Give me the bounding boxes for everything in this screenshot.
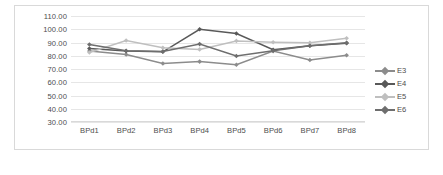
legend-label: E6 xyxy=(397,106,406,114)
series-line-E3 xyxy=(89,51,346,65)
x-axis-tick-label: BPd8 xyxy=(337,126,356,135)
x-axis-tick-label: BPd7 xyxy=(301,126,320,135)
data-point-E3-BPd8 xyxy=(344,53,349,58)
data-point-E3-BPd3 xyxy=(161,61,166,66)
legend-swatch-E3-icon xyxy=(375,66,395,75)
y-axis-tick-label: 60.00 xyxy=(47,78,67,87)
data-point-E5-BPd4 xyxy=(197,47,202,52)
x-axis-tick-label: BPd2 xyxy=(117,126,136,135)
data-point-E6-BPd7 xyxy=(308,44,313,49)
data-point-E6-BPd3 xyxy=(161,49,166,54)
chart-plot-wrapper: 110.00100.0090.0080.0070.0060.0050.0040.… xyxy=(15,6,428,149)
data-point-E6-BPd5 xyxy=(234,54,239,59)
y-axis-tick-label: 50.00 xyxy=(47,91,67,100)
data-point-E3-BPd7 xyxy=(308,58,313,63)
series-lines xyxy=(71,16,365,122)
x-axis-tick-label: BPd5 xyxy=(227,126,246,135)
data-point-E6-BPd1 xyxy=(87,42,92,47)
legend-label: E5 xyxy=(397,93,406,101)
x-axis-tick-label: BPd6 xyxy=(264,126,283,135)
legend-diamond-icon xyxy=(381,79,389,87)
y-axis-tick-label: 90.00 xyxy=(47,38,67,47)
legend-swatch-E6-icon xyxy=(375,105,395,114)
y-axis-tick-label: 110.00 xyxy=(44,12,67,21)
plot-area xyxy=(71,16,365,122)
legend-label: E3 xyxy=(397,67,406,75)
data-point-E5-BPd2 xyxy=(124,38,129,43)
gridline xyxy=(71,122,365,123)
x-axis: BPd1BPd2BPd3BPd4BPd5BPd6BPd7BPd8 xyxy=(71,126,365,140)
y-axis-tick-label: 40.00 xyxy=(47,104,67,113)
y-axis: 110.00100.0090.0080.0070.0060.0050.0040.… xyxy=(23,16,67,122)
legend-label: E4 xyxy=(397,80,406,88)
data-point-E3-BPd5 xyxy=(234,62,239,67)
y-axis-tick-label: 70.00 xyxy=(47,65,67,74)
data-point-E6-BPd4 xyxy=(197,42,202,47)
x-axis-tick-label: BPd1 xyxy=(80,126,99,135)
data-point-E4-BPd5 xyxy=(234,31,239,36)
data-point-E4-BPd1 xyxy=(87,46,92,51)
legend-item-E4[interactable]: E4 xyxy=(375,77,427,90)
legend-diamond-icon xyxy=(381,66,389,74)
legend-item-E6[interactable]: E6 xyxy=(375,103,427,116)
legend-diamond-icon xyxy=(381,92,389,100)
x-axis-tick-label: BPd4 xyxy=(190,126,209,135)
data-point-E5-BPd8 xyxy=(344,36,349,41)
legend-swatch-E5-icon xyxy=(375,92,395,101)
chart-container: 110.00100.0090.0080.0070.0060.0050.0040.… xyxy=(14,5,429,150)
data-point-E6-BPd2 xyxy=(124,48,129,53)
data-point-E6-BPd8 xyxy=(344,40,349,45)
legend-item-E5[interactable]: E5 xyxy=(375,90,427,103)
data-point-E5-BPd6 xyxy=(271,40,276,45)
data-point-E3-BPd4 xyxy=(197,59,202,64)
data-point-E5-BPd5 xyxy=(234,39,239,44)
x-axis-tick-label: BPd3 xyxy=(154,126,173,135)
legend-diamond-icon xyxy=(381,105,389,113)
legend-swatch-E4-icon xyxy=(375,79,395,88)
legend-item-E3[interactable]: E3 xyxy=(375,64,427,77)
y-axis-tick-label: 80.00 xyxy=(47,51,67,60)
y-axis-tick-label: 30.00 xyxy=(47,118,67,127)
chart-legend: E3E4E5E6 xyxy=(375,64,427,116)
y-axis-tick-label: 100.00 xyxy=(43,25,67,34)
